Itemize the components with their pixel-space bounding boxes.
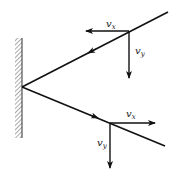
reflection-diagram: vx vy vx vy [0,0,179,178]
reflected-vy-label: vy [97,137,108,150]
incoming-ray: vx vy [22,12,168,87]
incoming-vy-label: vy [135,45,146,58]
wall [15,38,22,138]
incoming-vx-label: vx [106,18,116,31]
incoming-direction-arrow-icon [88,49,96,53]
reflected-vx-label: vx [126,108,136,121]
wall-hatching [15,38,22,138]
reflected-ray: vx vy [22,87,165,168]
